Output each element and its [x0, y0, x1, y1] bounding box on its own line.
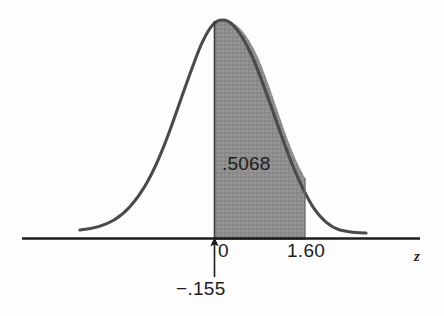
axis-tick-label-zero: 0 [218, 241, 229, 260]
pointer-value-label: −.155 [176, 279, 226, 298]
axis-tick-label-upper-bound: 1.60 [287, 241, 325, 260]
shaded-area-region [212, 18, 308, 242]
axis-name-label: z [414, 249, 420, 264]
area-value-label: .5068 [222, 154, 271, 173]
